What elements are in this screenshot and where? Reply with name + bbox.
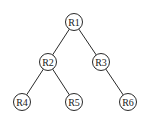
node-label: R6 [122,97,134,108]
nodes: R1R2R3R4R5R6 [14,14,137,111]
node-r3: R3 [93,54,110,71]
edge-r1-r2 [53,29,70,55]
edge-r3-r6 [106,69,123,95]
node-label: R5 [68,97,80,108]
edge-r2-r5 [53,69,70,95]
tree-diagram: R1R2R3R4R5R6 [0,0,147,125]
node-r2: R2 [40,54,57,71]
node-label: R4 [16,97,28,108]
node-r1: R1 [66,14,83,31]
node-label: R2 [42,57,54,68]
node-r6: R6 [120,94,137,111]
edge-r2-r4 [27,69,44,95]
node-label: R3 [95,57,107,68]
node-label: R1 [68,17,80,28]
node-r4: R4 [14,94,31,111]
node-r5: R5 [66,94,83,111]
edge-r1-r3 [79,29,96,55]
